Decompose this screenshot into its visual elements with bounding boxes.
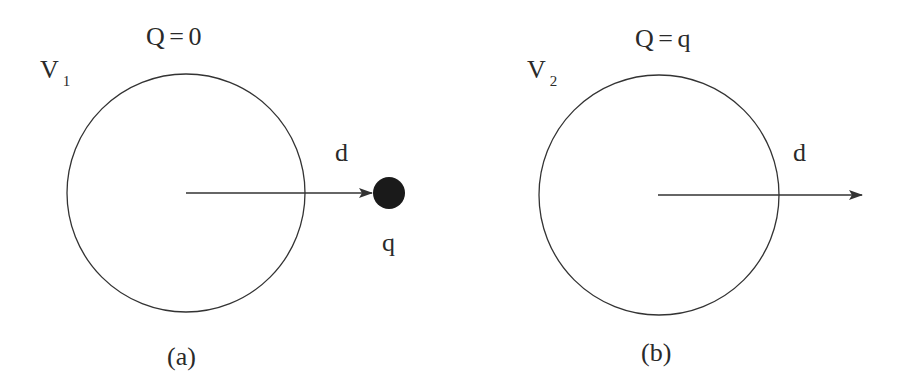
point-charge-dot	[373, 177, 405, 209]
diagram-canvas	[0, 0, 901, 388]
potential-label-b: V2	[527, 57, 557, 83]
potential-subscript: 1	[63, 73, 71, 89]
potential-symbol: V	[527, 55, 546, 84]
caption-a: (a)	[167, 344, 196, 370]
charge-label-b: Q = q	[635, 26, 689, 52]
caption-b: (b)	[641, 340, 671, 366]
potential-symbol: V	[40, 55, 59, 84]
distance-label-a: d	[335, 140, 348, 166]
potential-label-a: V1	[40, 57, 70, 83]
potential-subscript: 2	[550, 73, 558, 89]
charge-label-a: Q = 0	[146, 24, 200, 50]
distance-label-b: d	[793, 140, 806, 166]
point-charge-label: q	[382, 230, 395, 256]
